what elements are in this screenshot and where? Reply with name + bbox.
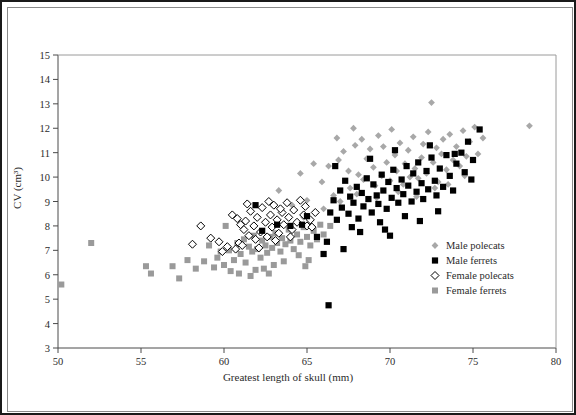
legend-item-female-ferrets: Female ferrets	[428, 283, 544, 298]
y-axis-label: CV (cm³)	[11, 143, 23, 233]
legend-label: Female ferrets	[446, 285, 506, 296]
x-tick-label: 80	[551, 356, 562, 367]
legend-item-female-polecats: Female polecats	[428, 268, 544, 283]
y-tick-label: 14	[40, 74, 51, 85]
diamond-filled-icon	[428, 239, 442, 252]
y-tick-label: 5	[45, 294, 50, 305]
y-tick-label: 12	[40, 123, 51, 134]
square-filled-gray-icon	[428, 284, 442, 297]
x-tick-label: 55	[136, 356, 147, 367]
x-tick-label: 65	[302, 356, 313, 367]
x-tick-label: 75	[468, 356, 479, 367]
y-tick-label: 4	[45, 319, 51, 330]
legend-label: Female polecats	[446, 270, 514, 281]
legend-item-male-ferrets: Male ferrets	[428, 253, 544, 268]
square-filled-icon	[428, 254, 442, 267]
y-tick-label: 13	[40, 99, 51, 110]
y-tick-label: 9	[45, 197, 50, 208]
diamond-open-icon	[428, 269, 442, 282]
legend: Male polecats Male ferrets Female poleca…	[428, 238, 544, 298]
y-tick-label: 11	[40, 148, 50, 159]
series-male-polecats	[275, 99, 532, 221]
legend-label: Male ferrets	[446, 255, 497, 266]
legend-label: Male polecats	[446, 240, 505, 251]
y-tick-label: 10	[40, 172, 51, 183]
y-tick-label: 3	[45, 343, 50, 354]
scatter-plot-canvas: 345678910111213141550556065707580	[0, 0, 576, 415]
y-tick-label: 8	[45, 221, 50, 232]
x-tick-label: 50	[53, 356, 64, 367]
y-tick-label: 15	[40, 50, 51, 61]
x-tick-label: 60	[219, 356, 230, 367]
y-tick-label: 7	[45, 245, 50, 256]
y-tick-label: 6	[45, 270, 50, 281]
x-tick-label: 70	[385, 356, 396, 367]
x-axis-label: Greatest length of skull (mm)	[0, 371, 576, 383]
legend-item-male-polecats: Male polecats	[428, 238, 544, 253]
